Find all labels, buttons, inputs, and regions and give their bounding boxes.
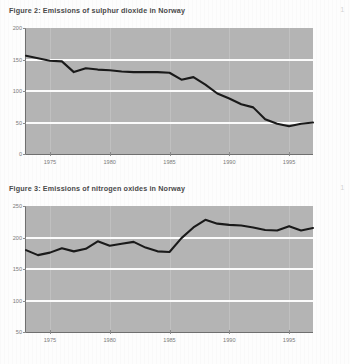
chart-sulphur-dioxide: 050100150200 19751980198519901995 [0, 22, 350, 172]
figure-2-title: Figure 2: Emissions of sulphur dioxide i… [9, 6, 185, 15]
series-path [26, 220, 313, 255]
figure-block-3: Figure 3: Emissions of nitrogen oxides i… [0, 178, 350, 364]
series-line-0 [0, 22, 350, 172]
series-line-1 [0, 200, 350, 360]
chart-nitrogen-oxides: 50100150200250 19751980198519901995 [0, 200, 350, 360]
margin-mark-bottom: 1 [340, 184, 344, 191]
margin-mark-top: 1 [340, 6, 344, 13]
figure-block-2: Figure 2: Emissions of sulphur dioxide i… [0, 0, 350, 178]
document-page: Figure 2: Emissions of sulphur dioxide i… [0, 0, 350, 364]
figure-3-title: Figure 3: Emissions of nitrogen oxides i… [9, 184, 185, 193]
series-path [26, 56, 313, 127]
